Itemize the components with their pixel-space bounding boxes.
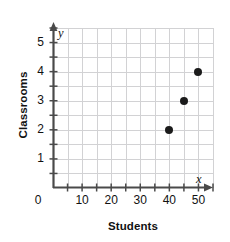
origin-tick-label: 0 [30,193,46,207]
y-axis-tick-label: 4 [22,64,44,78]
y-variable-label: y [58,26,64,41]
x-axis-tick-label: 10 [67,193,97,207]
x-axis-tick-label: 40 [154,193,184,207]
y-axis-tick-label: 5 [22,35,44,49]
x-axis-tick-label: 50 [183,193,213,207]
x-variable-label: x [196,172,202,187]
y-axis-tick-label: 2 [22,122,44,136]
y-axis-tick-label: 3 [22,93,44,107]
x-axis-tick-label: 30 [125,193,155,207]
y-axis-tick-label: 1 [22,151,44,165]
x-axis-tick-label: 20 [96,193,126,207]
scatter-plot-figure: Classrooms Students 102030405012345 0 y … [0,0,230,242]
